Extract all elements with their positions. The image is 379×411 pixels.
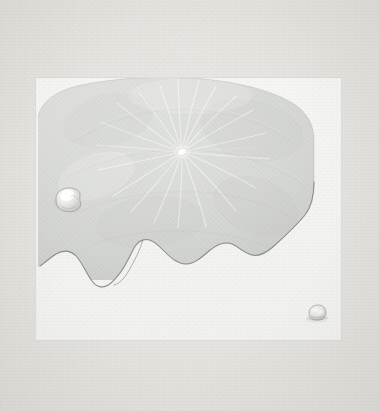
artwork-frame [0,0,379,411]
print-panel [36,78,341,340]
